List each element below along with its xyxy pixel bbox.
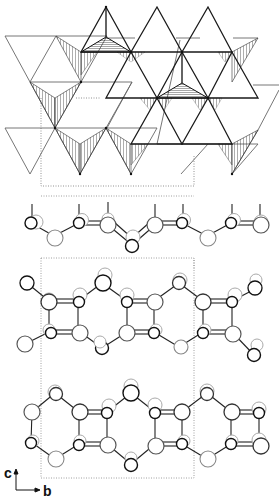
hatched-tetrahedra [30, 36, 258, 174]
axis-label-b: b [43, 484, 52, 498]
ring-layer-upper [17, 268, 263, 362]
crystal-structure-figure [0, 0, 279, 501]
ring-bonds-lower [31, 393, 259, 464]
ring-layer-lower [24, 379, 269, 472]
axis-label-c: c [4, 466, 12, 480]
ring-atoms-lower [24, 379, 269, 472]
axis-indicator [14, 469, 40, 492]
chain-atoms [25, 213, 269, 253]
ring-atoms-upper [17, 268, 263, 362]
ring-bonds-upper [25, 283, 255, 355]
polyhedral-panel [5, 6, 279, 186]
front-tetrahedra [81, 7, 258, 144]
